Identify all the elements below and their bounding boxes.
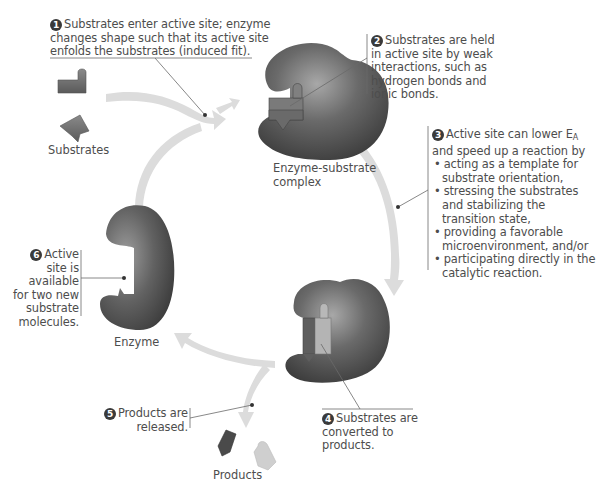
step-1-label: 1Substrates enter active site; enzyme ch…	[50, 18, 280, 59]
step-6-line: molecules.	[19, 315, 79, 329]
step-4-line: products.	[322, 438, 374, 452]
enzyme-substrate-complex	[258, 43, 388, 160]
step-3-bullet: acting as a template forsubstrate orient…	[432, 158, 597, 185]
step-3-intro: and speed up a reaction by	[432, 144, 585, 158]
step-4-label: 4Substrates are converted to products.	[322, 412, 432, 453]
step-1-line: changes shape such that its active site	[50, 31, 269, 45]
step-3-label: 3Active site can lower EA and speed up a…	[432, 128, 597, 281]
activation-energy-subscript: A	[573, 133, 578, 142]
step-5-badge: 5	[104, 408, 116, 420]
step-5-line: released.	[137, 420, 189, 434]
step-5-label: 5Products are released.	[98, 407, 188, 434]
step-2-line: hydrogen bonds and	[371, 74, 487, 88]
products-molecules	[218, 430, 276, 470]
arrow-back-to-enzyme	[174, 333, 275, 368]
step-2-line: in active site by weak	[371, 47, 493, 61]
step-2-badge: 2	[371, 35, 383, 47]
enzyme-products-complex	[285, 279, 389, 383]
step-3-badge: 3	[432, 129, 444, 141]
step-6-label: 6Active site is available for two new su…	[4, 248, 79, 330]
step-4-line: converted to	[322, 425, 393, 439]
step-2-line: interactions, such as	[371, 60, 487, 74]
step-6-line: for two new	[13, 288, 79, 302]
step-4-badge: 4	[322, 413, 334, 425]
step-1-line: enfolds the substrates (induced fit).	[50, 44, 250, 58]
complex-caption: Enzyme-substrate complex	[273, 162, 376, 189]
product-light	[254, 442, 276, 471]
complex-caption-line2: complex	[273, 175, 321, 189]
step-6-line: substrate	[26, 301, 79, 315]
step-6-line: available	[28, 274, 79, 288]
arrow-substrates-to-complex	[106, 92, 226, 130]
substrate-b	[60, 115, 89, 142]
step-6-line: site is	[46, 261, 79, 275]
step-1-badge: 1	[50, 19, 62, 31]
step-1-line: Substrates enter active site; enzyme	[64, 17, 271, 31]
step-5-line: Products are	[118, 406, 188, 420]
arrow-enzyme-to-complex	[135, 123, 202, 207]
products-caption: Products	[213, 469, 262, 483]
step-3-bullet: providing a favorablemicroenvironment, a…	[432, 226, 597, 253]
product-dark	[218, 430, 236, 456]
enzyme-caption: Enzyme	[114, 336, 159, 350]
complex-caption-line1: Enzyme-substrate	[273, 161, 376, 175]
arrow-products-release	[238, 364, 270, 428]
step-6-badge: 6	[30, 249, 42, 261]
step-2-line: Substrates are held	[385, 33, 495, 47]
step-2-line: ionic bonds.	[371, 87, 438, 101]
step-3-bullet: stressing the substratesand stabilizing …	[432, 185, 597, 226]
step-3-bullet: participating directly in thecatalytic r…	[432, 253, 597, 280]
step-4-line: Substrates are	[336, 411, 418, 425]
substrates-molecules	[58, 69, 89, 142]
step-2-label: 2Substrates are held in active site by w…	[371, 34, 521, 102]
substrates-caption: Substrates	[48, 144, 109, 158]
step-6-line: Active	[44, 247, 79, 261]
substrate-a	[58, 69, 86, 93]
free-enzyme	[100, 205, 174, 330]
step-3-intro: Active site can lower E	[446, 127, 573, 141]
